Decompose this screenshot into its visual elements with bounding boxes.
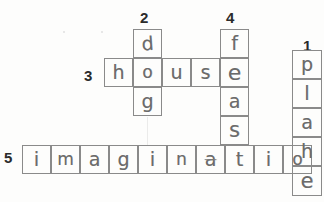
crossword-cell[interactable] (80, 145, 109, 174)
crossword-cell[interactable] (220, 87, 249, 116)
crossword-cell[interactable] (220, 29, 249, 58)
crossword-cell[interactable] (138, 145, 167, 174)
clue-number-4: 4 (226, 10, 234, 25)
crossword-cell[interactable] (225, 145, 254, 174)
paper-smudge (101, 31, 103, 33)
crossword-cell[interactable] (196, 145, 225, 174)
crossword-cell[interactable] (109, 145, 138, 174)
crossword-cell[interactable] (51, 145, 80, 174)
crossword-cell[interactable] (220, 116, 249, 145)
crossword-cell[interactable] (292, 108, 322, 137)
clue-number-3: 3 (84, 68, 92, 83)
clue-number-5: 5 (4, 150, 12, 165)
crossword-cell[interactable] (292, 50, 322, 79)
stray-pencil-mark (147, 117, 148, 145)
crossword-cell[interactable] (191, 58, 220, 87)
crossword-cell[interactable] (220, 58, 249, 87)
crossword-puzzle: 2 4 1 3 5 d o g h u s f e a s p l a e i (0, 0, 324, 202)
crossword-cell[interactable] (283, 145, 312, 174)
crossword-cell[interactable] (254, 145, 283, 174)
crossword-cell[interactable] (133, 87, 162, 116)
crossword-cell[interactable] (167, 145, 196, 174)
crossword-cell[interactable] (22, 145, 51, 174)
clue-number-2: 2 (140, 10, 148, 25)
crossword-cell[interactable] (162, 58, 191, 87)
crossword-cell[interactable] (133, 58, 162, 87)
crossword-cell[interactable] (133, 29, 162, 58)
crossword-cell[interactable] (104, 58, 133, 87)
paper-smudge (63, 31, 65, 33)
crossword-cell[interactable] (292, 79, 322, 108)
